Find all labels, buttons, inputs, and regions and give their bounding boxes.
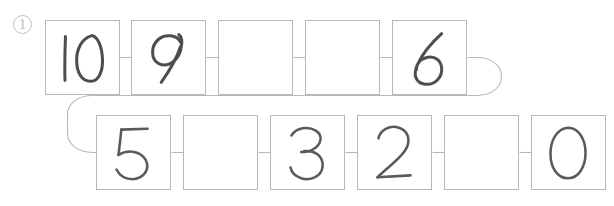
handwritten-10: [46, 21, 119, 94]
handwritten-2: [358, 116, 431, 189]
handwritten-blank: [306, 21, 379, 94]
handwritten-5: [97, 116, 170, 189]
handwritten-blank: [219, 21, 292, 94]
handwritten-0: [532, 116, 605, 189]
handwritten-blank: [184, 116, 257, 189]
wrap-left-curve: [68, 96, 97, 153]
handwritten-3: [271, 116, 344, 189]
handwritten-6: [393, 21, 466, 94]
circled-number-one: 1: [13, 15, 32, 34]
worksheet-canvas: 1: [0, 0, 614, 206]
cell-3[interactable]: [270, 115, 345, 190]
cell-0[interactable]: [531, 115, 606, 190]
cell-5[interactable]: [96, 115, 171, 190]
handwritten-9: [132, 21, 205, 94]
cell-blank-1[interactable]: [444, 115, 519, 190]
cell-6[interactable]: [392, 20, 467, 95]
cell-10[interactable]: [45, 20, 120, 95]
cell-blank-4[interactable]: [183, 115, 258, 190]
cell-blank-8[interactable]: [218, 20, 293, 95]
question-number-label: 1: [14, 16, 31, 33]
cell-2[interactable]: [357, 115, 432, 190]
handwritten-blank: [445, 116, 518, 189]
cell-9[interactable]: [131, 20, 206, 95]
cell-blank-7[interactable]: [305, 20, 380, 95]
